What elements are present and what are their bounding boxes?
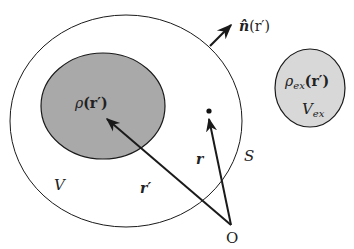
normal-vector-arrow [210,25,231,46]
surface-label: S [244,147,254,165]
field-point-dot [206,108,211,113]
charge-density-label: ρ(r′) [74,95,108,111]
diagram-canvas: n̂(r′) ρ(r′) ρex(r′) Vex S V r′ r O [0,0,354,249]
external-charge-density-label: ρex(r′) [284,73,329,91]
normal-label: n̂(r′) [239,18,270,34]
origin-label: O [226,229,238,247]
vector-r-prime-label: r′ [140,180,151,196]
